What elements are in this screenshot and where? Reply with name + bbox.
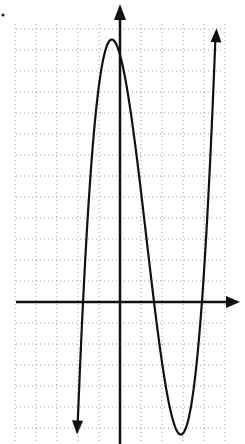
curve-up-arrow-icon: [210, 28, 221, 42]
cubic-graph: [0, 0, 245, 444]
x-axis: [16, 296, 240, 308]
y-axis-arrow-icon: [114, 4, 126, 20]
cubic-curve: [78, 36, 216, 434]
corner-dot: [1, 13, 4, 16]
curve-down-arrow-icon: [72, 420, 83, 434]
x-axis-arrow-icon: [226, 296, 240, 308]
